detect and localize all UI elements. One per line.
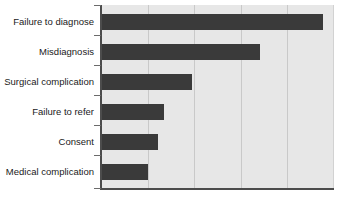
category-label-failure-to-refer: Failure to refer	[32, 106, 94, 117]
bar-misdiagnosis	[102, 44, 260, 60]
gridline-2	[194, 5, 195, 189]
gridline-4	[287, 5, 288, 189]
category-label-medical-complication: Medical complication	[6, 166, 94, 177]
y-axis-tick-3	[94, 95, 101, 96]
bar-chart: Failure to diagnose Misdiagnosis Surgica…	[0, 0, 343, 197]
bar-failure-to-diagnose	[102, 14, 323, 30]
category-label-consent: Consent	[59, 136, 94, 147]
y-axis-tick-0	[94, 5, 101, 6]
gridline-3	[241, 5, 242, 189]
x-axis-line	[100, 188, 334, 190]
y-axis-tick-5	[94, 155, 101, 156]
y-axis-tick-2	[94, 65, 101, 66]
gridline-1	[148, 5, 149, 189]
y-axis-line	[100, 5, 102, 190]
y-axis-tick-1	[94, 35, 101, 36]
bar-medical-complication	[102, 164, 148, 180]
bar-surgical-complication	[102, 74, 192, 90]
y-axis-tick-4	[94, 125, 101, 126]
category-label-surgical-complication: Surgical complication	[4, 76, 94, 87]
category-label-failure-to-diagnose: Failure to diagnose	[13, 16, 94, 27]
y-axis-tick-6	[94, 188, 101, 189]
category-label-misdiagnosis: Misdiagnosis	[39, 46, 94, 57]
plot-area	[101, 5, 334, 189]
bar-failure-to-refer	[102, 104, 164, 120]
bar-consent	[102, 134, 158, 150]
